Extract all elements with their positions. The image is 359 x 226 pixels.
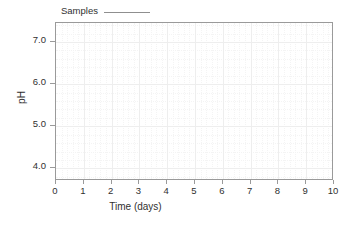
y-axis-tick-label: 6.0 <box>6 77 46 87</box>
x-axis-tick <box>55 180 56 184</box>
x-axis-tick-label: 4 <box>151 186 181 196</box>
chart-legend: Samples <box>61 3 150 19</box>
x-axis-tick-label: 8 <box>262 186 292 196</box>
gridline-minor-horizontal <box>56 143 332 144</box>
x-axis-tick <box>277 180 278 184</box>
x-axis-tick <box>333 180 334 184</box>
gridline-minor-horizontal <box>56 152 332 153</box>
gridline-minor-horizontal <box>56 109 332 110</box>
chart-figure: Samples pH Time (days) 0123456789107.06.… <box>0 0 359 226</box>
x-axis-tick <box>138 180 139 184</box>
y-axis-tick <box>50 167 55 168</box>
x-axis-tick-label: 5 <box>179 186 209 196</box>
gridline-minor-horizontal <box>56 118 332 119</box>
gridline-major-vertical <box>195 23 196 179</box>
legend-line-swatch-samples <box>104 12 150 13</box>
gridline-major-vertical <box>84 23 85 179</box>
gridline-major-vertical <box>251 23 252 179</box>
gridline-minor-horizontal <box>56 67 332 68</box>
y-axis-tick-label: 7.0 <box>6 35 46 45</box>
x-axis-tick-label: 1 <box>68 186 98 196</box>
x-axis-tick <box>111 180 112 184</box>
x-axis-tick-label: 7 <box>235 186 265 196</box>
x-axis-tick <box>194 180 195 184</box>
x-axis-tick <box>166 180 167 184</box>
plot-area <box>56 23 332 179</box>
gridline-major-horizontal <box>56 42 332 43</box>
x-axis-title-wrap: Time (days) <box>0 201 359 212</box>
x-axis-tick-label: 9 <box>290 186 320 196</box>
gridline-minor-horizontal <box>56 25 332 26</box>
gridline-major-horizontal <box>56 168 332 169</box>
x-axis-tick-label: 0 <box>40 186 70 196</box>
x-axis-tick-label: 2 <box>96 186 126 196</box>
y-axis-title: pH <box>16 85 27 111</box>
gridline-major-vertical <box>167 23 168 179</box>
x-axis-tick-label: 10 <box>318 186 348 196</box>
gridline-minor-horizontal <box>56 76 332 77</box>
x-axis-tick <box>305 180 306 184</box>
gridline-minor-horizontal <box>56 50 332 51</box>
gridline-major-vertical <box>139 23 140 179</box>
x-axis-title: Time (days) <box>109 201 161 212</box>
y-axis-tick <box>50 125 55 126</box>
legend-entry-label-samples: Samples <box>61 6 98 16</box>
y-axis-tick-label: 5.0 <box>6 119 46 129</box>
gridline-major-vertical <box>306 23 307 179</box>
gridline-major-vertical <box>278 23 279 179</box>
x-axis-tick <box>250 180 251 184</box>
gridline-minor-horizontal <box>56 93 332 94</box>
gridline-minor-horizontal <box>56 177 332 178</box>
y-axis-tick <box>50 83 55 84</box>
y-axis-tick-label: 4.0 <box>6 161 46 171</box>
gridline-major-horizontal <box>56 126 332 127</box>
x-axis-tick-label: 3 <box>123 186 153 196</box>
gridline-minor-horizontal <box>56 135 332 136</box>
gridline-minor-horizontal <box>56 101 332 102</box>
gridline-major-vertical <box>223 23 224 179</box>
x-axis-tick <box>222 180 223 184</box>
gridline-major-horizontal <box>56 84 332 85</box>
x-axis-tick-label: 6 <box>207 186 237 196</box>
gridline-minor-horizontal <box>56 59 332 60</box>
y-axis-tick <box>50 41 55 42</box>
gridline-minor-horizontal <box>56 160 332 161</box>
gridline-minor-horizontal <box>56 34 332 35</box>
plot-frame <box>55 22 333 180</box>
x-axis-tick <box>83 180 84 184</box>
gridline-major-vertical <box>112 23 113 179</box>
